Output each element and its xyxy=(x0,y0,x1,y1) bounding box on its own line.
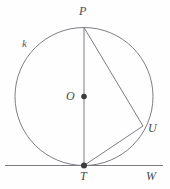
label-point-p: P xyxy=(79,5,86,17)
point-marker-t xyxy=(81,163,87,169)
geometry-canvas xyxy=(0,0,170,189)
segment-TU xyxy=(84,126,143,166)
label-point-t: T xyxy=(80,170,87,182)
segment-PU xyxy=(84,28,143,127)
label-point-u: U xyxy=(148,122,157,134)
label-point-o: O xyxy=(66,90,75,102)
point-marker-o xyxy=(81,94,87,100)
geometry-figure: P k O U T W xyxy=(0,0,170,189)
label-circle-k: k xyxy=(22,38,27,49)
label-point-w: W xyxy=(146,170,156,182)
